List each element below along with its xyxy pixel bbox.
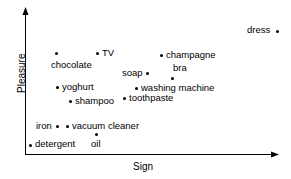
data-point-label: oil <box>91 139 101 149</box>
data-point-marker <box>96 52 99 55</box>
data-point-marker <box>123 97 126 100</box>
data-point-marker <box>171 77 174 80</box>
data-point-marker <box>95 133 98 136</box>
data-point-label: TV <box>102 48 114 58</box>
data-point-marker <box>69 100 72 103</box>
y-axis-title: Pleasure <box>16 54 27 93</box>
data-point-label: soap <box>122 68 143 78</box>
data-point-label: iron <box>36 121 52 131</box>
data-point-marker <box>55 52 58 55</box>
data-point-marker <box>146 72 149 75</box>
data-point-label: dress <box>247 25 270 35</box>
data-point-label: champagne <box>166 50 216 60</box>
data-point-label: vacuum cleaner <box>72 121 139 131</box>
x-axis-arrowhead <box>271 152 279 158</box>
data-point-marker <box>56 86 59 89</box>
data-point-label: shampoo <box>75 96 114 106</box>
data-point-marker <box>276 30 279 33</box>
data-point-marker <box>66 125 69 128</box>
data-point-marker <box>160 54 163 57</box>
data-point-label: toothpaste <box>129 93 173 103</box>
data-point-label: chocolate <box>51 60 92 70</box>
data-point-label: bra <box>173 63 187 73</box>
data-point-label: yoghurt <box>62 82 94 92</box>
y-axis-arrowhead <box>23 7 29 15</box>
data-point-marker <box>135 87 138 90</box>
data-point-label: detergent <box>35 139 75 149</box>
x-axis-title: Sign <box>133 161 153 172</box>
data-point-marker <box>56 125 59 128</box>
data-point-marker <box>29 144 32 147</box>
scatter-plot-figure: Pleasure Sign dresschocolateTVchampagnes… <box>0 0 291 179</box>
